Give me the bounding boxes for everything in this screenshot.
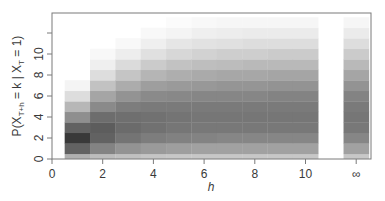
heatmap-cell xyxy=(267,112,293,123)
heatmap-cell xyxy=(217,17,243,28)
heatmap-cell xyxy=(191,49,217,60)
heatmap-cell xyxy=(344,17,370,28)
heatmap-cell xyxy=(65,122,91,133)
heatmap-cell xyxy=(90,122,116,133)
heatmap-cell xyxy=(344,28,370,39)
heatmap-cell xyxy=(242,38,268,49)
heatmap-cell xyxy=(141,49,167,60)
heatmap-cell xyxy=(191,112,217,123)
heatmap-cell xyxy=(115,122,141,133)
heatmap-cell xyxy=(267,59,293,70)
heatmap-cell xyxy=(166,80,192,91)
heatmap-cell xyxy=(166,59,192,70)
heatmap-cell xyxy=(242,49,268,60)
heatmap-cell xyxy=(217,80,243,91)
heatmap-cell xyxy=(242,122,268,133)
heatmap-cell xyxy=(141,91,167,102)
heatmap-cell xyxy=(242,28,268,39)
heatmap-cell xyxy=(344,122,370,133)
heatmap-cell xyxy=(344,112,370,123)
heatmap-cell xyxy=(166,28,192,39)
y-tick-label: 8 xyxy=(32,71,46,78)
heatmap-cell xyxy=(242,112,268,123)
heatmap-cell xyxy=(217,101,243,112)
heatmap-cell xyxy=(191,59,217,70)
heatmap-cell xyxy=(293,122,319,133)
x-tick-label: ∞ xyxy=(352,167,361,181)
heatmap-cell xyxy=(267,49,293,60)
heatmap-cell xyxy=(166,49,192,60)
heatmap-cells xyxy=(65,17,370,164)
heatmap-cell xyxy=(242,59,268,70)
heatmap-cell xyxy=(242,70,268,81)
heatmap-cell xyxy=(267,122,293,133)
heatmap-cell xyxy=(166,143,192,154)
heatmap-cell xyxy=(166,101,192,112)
heatmap-cell xyxy=(293,112,319,123)
heatmap-cell xyxy=(141,122,167,133)
heatmap-cell xyxy=(191,91,217,102)
x-axis-title: h xyxy=(208,180,215,194)
heatmap-cell xyxy=(115,38,141,49)
heatmap-cell xyxy=(115,91,141,102)
heatmap-cell xyxy=(217,91,243,102)
heatmap-cell xyxy=(141,133,167,144)
heatmap-cell xyxy=(242,91,268,102)
heatmap-cell xyxy=(267,17,293,28)
heatmap-chart: 0246810∞ 0246810 h P(XT+h = k | XT = 1) xyxy=(0,0,385,201)
heatmap-cell xyxy=(191,70,217,81)
heatmap-cell xyxy=(293,133,319,144)
heatmap-cell xyxy=(242,101,268,112)
heatmap-cell xyxy=(293,91,319,102)
heatmap-cell xyxy=(115,70,141,81)
heatmap-cell xyxy=(293,70,319,81)
heatmap-cell xyxy=(217,38,243,49)
x-tick-label: 8 xyxy=(251,167,258,181)
x-tick-label: 0 xyxy=(49,167,56,181)
y-tick-label: 10 xyxy=(32,47,46,61)
heatmap-cell xyxy=(191,17,217,28)
heatmap-cell xyxy=(293,80,319,91)
x-tick-label: 6 xyxy=(201,167,208,181)
heatmap-cell xyxy=(141,143,167,154)
heatmap-cell xyxy=(90,91,116,102)
heatmap-cell xyxy=(166,133,192,144)
heatmap-cell xyxy=(267,143,293,154)
heatmap-cell xyxy=(191,80,217,91)
heatmap-cell xyxy=(293,38,319,49)
x-tick-label: 10 xyxy=(299,167,313,181)
x-tick-label: 2 xyxy=(99,167,106,181)
heatmap-cell xyxy=(267,70,293,81)
heatmap-cell xyxy=(242,17,268,28)
heatmap-cell xyxy=(90,143,116,154)
heatmap-cell xyxy=(267,101,293,112)
heatmap-cell xyxy=(115,133,141,144)
heatmap-cell xyxy=(115,49,141,60)
heatmap-cell xyxy=(293,49,319,60)
heatmap-cell xyxy=(242,143,268,154)
heatmap-cell xyxy=(65,101,91,112)
heatmap-cell xyxy=(166,122,192,133)
heatmap-cell xyxy=(293,17,319,28)
x-tick-label: 4 xyxy=(150,167,157,181)
heatmap-cell xyxy=(65,112,91,123)
heatmap-cell xyxy=(217,28,243,39)
heatmap-cell xyxy=(65,80,91,91)
heatmap-cell xyxy=(267,80,293,91)
heatmap-cell xyxy=(344,70,370,81)
heatmap-cell xyxy=(166,70,192,81)
heatmap-cell xyxy=(141,28,167,39)
heatmap-cell xyxy=(344,143,370,154)
heatmap-cell xyxy=(344,49,370,60)
heatmap-cell xyxy=(141,70,167,81)
heatmap-cell xyxy=(242,80,268,91)
heatmap-cell xyxy=(191,122,217,133)
y-axis: 0246810 xyxy=(32,33,52,162)
y-tick-label: 2 xyxy=(32,134,46,141)
heatmap-cell xyxy=(217,49,243,60)
y-tick-label: 4 xyxy=(32,113,46,120)
heatmap-cell xyxy=(90,101,116,112)
heatmap-cell xyxy=(141,38,167,49)
heatmap-cell xyxy=(344,91,370,102)
heatmap-cell xyxy=(65,91,91,102)
